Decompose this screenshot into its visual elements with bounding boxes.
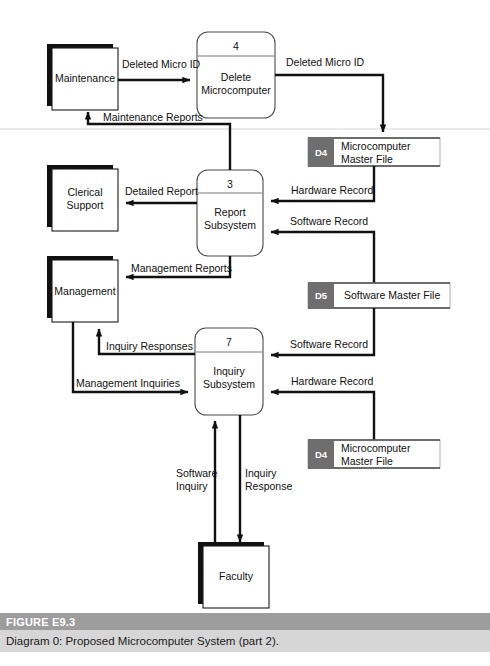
entity-faculty: Faculty <box>198 542 269 608</box>
flow-software-record-bottom: Software Record <box>271 308 374 355</box>
store-label-line2: Master File <box>341 455 393 467</box>
flow-arrow <box>271 232 374 283</box>
process-label-line2: Subsystem <box>204 219 256 231</box>
flow-inquiry-responses: Inquiry Responses <box>99 329 195 354</box>
flow-label: Hardware Record <box>291 375 373 387</box>
flow-arrow <box>271 392 374 440</box>
figure-number: FIGURE E9.3 <box>6 616 75 628</box>
data-store-d4-top: D4 Microcomputer Master File <box>308 138 440 166</box>
flow-label-line1: Software <box>176 467 218 479</box>
data-store-d5: D5 Software Master File <box>308 283 450 308</box>
flow-hardware-record-top: Hardware Record <box>271 166 374 201</box>
store-id-label: D4 <box>315 147 328 158</box>
process-label-line1: Report <box>214 206 246 218</box>
process-label-line2: Microcomputer <box>201 84 271 96</box>
flow-label-line2: Response <box>245 480 292 492</box>
flow-detailed-report: Detailed Report <box>125 185 198 203</box>
flow-management-reports: Management Reports <box>126 256 232 277</box>
process-report-subsystem: 3 Report Subsystem <box>197 170 263 256</box>
entity-management: Management <box>47 256 118 322</box>
store-label-line1: Microcomputer <box>341 442 411 454</box>
flow-software-record-top: Software Record <box>271 215 374 283</box>
entity-label-line1: Clerical <box>67 186 102 198</box>
flow-label: Management Reports <box>131 262 232 274</box>
flow-deleted-micro-id-in: Deleted Micro ID <box>118 58 201 80</box>
flow-label: Software Record <box>290 215 368 227</box>
flow-management-inquiries: Management Inquiries <box>73 322 188 392</box>
flow-label: Maintenance Reports <box>103 111 203 123</box>
flow-arrow <box>275 75 383 132</box>
page-bottom-margin <box>0 655 490 666</box>
flow-hardware-record-bottom: Hardware Record <box>271 375 374 440</box>
entity-maintenance: Maintenance <box>47 44 118 110</box>
figure-number-bar: FIGURE E9.3 <box>0 613 490 630</box>
flow-label: Deleted Micro ID <box>286 56 365 68</box>
process-label-line1: Inquiry <box>213 365 245 377</box>
flow-deleted-micro-id-out: Deleted Micro ID <box>275 56 383 132</box>
flow-label-line1: Inquiry <box>245 467 277 479</box>
data-flow-diagram: Maintenance 4 Delete Microcomputer Delet… <box>0 0 490 620</box>
flow-label: Detailed Report <box>125 185 198 197</box>
flow-label: Deleted Micro ID <box>122 58 201 70</box>
flow-label: Inquiry Responses <box>106 340 193 352</box>
entity-label-line2: Support <box>67 199 104 211</box>
entity-clerical-support: Clerical Support <box>47 165 118 231</box>
store-label-line1: Software Master File <box>344 289 440 301</box>
figure-caption-bar: Diagram 0: Proposed Microcomputer System… <box>0 630 490 652</box>
process-label-line2: Subsystem <box>203 378 255 390</box>
store-label-line2: Master File <box>341 153 393 165</box>
process-number: 7 <box>226 336 232 348</box>
flow-maintenance-reports: Maintenance Reports <box>88 111 230 170</box>
store-id-label: D4 <box>315 449 328 460</box>
flow-inquiry-response: Inquiry Response <box>240 415 292 542</box>
process-delete-microcomputer: 4 Delete Microcomputer <box>197 32 275 118</box>
flow-label-line2: Inquiry <box>176 480 208 492</box>
entity-faculty-label: Faculty <box>219 570 254 582</box>
process-number: 4 <box>233 40 239 52</box>
entity-management-label: Management <box>54 285 115 297</box>
figure-caption-block: FIGURE E9.3 Diagram 0: Proposed Microcom… <box>0 613 490 652</box>
process-number: 3 <box>227 178 233 190</box>
flow-label: Software Record <box>290 338 368 350</box>
process-inquiry-subsystem: 7 Inquiry Subsystem <box>195 328 263 415</box>
store-id-label: D5 <box>315 290 328 301</box>
process-label-line1: Delete <box>221 71 252 83</box>
data-store-d4-bottom: D4 Microcomputer Master File <box>308 440 440 468</box>
entity-maintenance-label: Maintenance <box>55 72 115 84</box>
figure-caption-text: Diagram 0: Proposed Microcomputer System… <box>6 635 279 647</box>
flow-software-inquiry: Software Inquiry <box>176 421 218 545</box>
figure-e9-3: Maintenance 4 Delete Microcomputer Delet… <box>0 0 490 666</box>
flow-label: Management Inquiries <box>76 377 180 389</box>
flow-label: Hardware Record <box>291 184 373 196</box>
store-label-line1: Microcomputer <box>341 140 411 152</box>
